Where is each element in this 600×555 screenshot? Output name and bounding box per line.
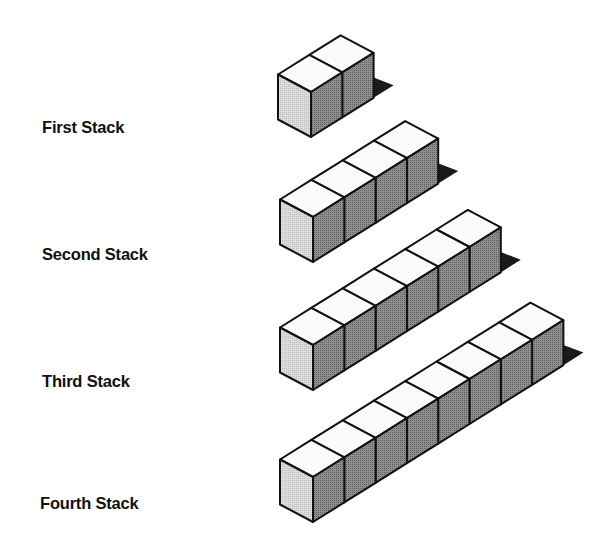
second-stack-label: Second Stack xyxy=(42,245,148,264)
first-stack-label: First Stack xyxy=(42,118,124,137)
third-stack-label: Third Stack xyxy=(42,372,130,391)
fourth-stack-label: Fourth Stack xyxy=(40,494,138,513)
cube-stacks-canvas xyxy=(0,0,600,555)
stack-shadow xyxy=(374,78,394,98)
stack-1 xyxy=(278,35,394,137)
stacked-cubes-diagram: First Stack Second Stack Third Stack Fou… xyxy=(0,0,600,555)
stack-shadow xyxy=(563,345,583,365)
stack-shadow xyxy=(501,252,521,272)
stack-shadow xyxy=(438,163,458,183)
